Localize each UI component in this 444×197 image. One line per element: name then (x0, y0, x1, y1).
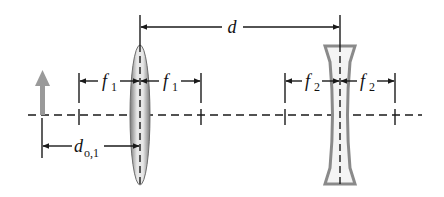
separation-label: d (228, 17, 238, 37)
f2-right-label: f (360, 71, 368, 91)
two-lens-diagram: d f 1 f 1 f 2 f 2 (0, 0, 444, 197)
f2-right-sub: 2 (369, 80, 375, 94)
f1-left-sub: 1 (111, 80, 117, 94)
f1-right-label: f (163, 71, 171, 91)
converging-lens (130, 15, 150, 187)
diverging-lens (325, 15, 355, 187)
f2-left-sub: 2 (314, 80, 320, 94)
f1-right-sub: 1 (172, 80, 178, 94)
object-distance-sub: o,1 (84, 146, 99, 160)
upward-arrow-icon (35, 70, 50, 115)
object-distance-dimension: d o,1 (42, 118, 139, 160)
f2-left-label: f (305, 71, 313, 91)
f1-left-label: f (102, 71, 110, 91)
separation-dimension: d (141, 17, 339, 37)
object-distance-label: d (74, 136, 84, 156)
